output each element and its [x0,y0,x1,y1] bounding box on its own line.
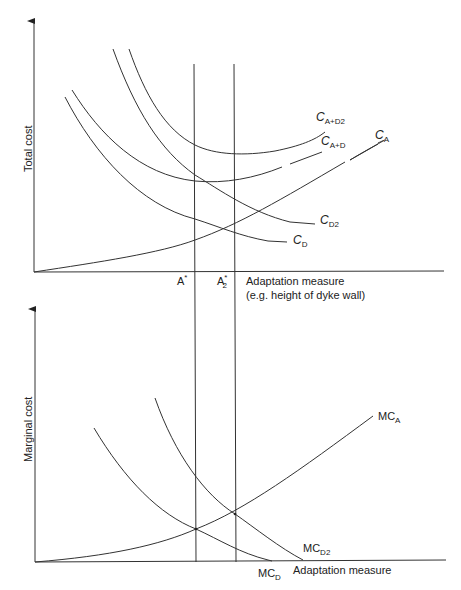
label-c-d2: CD2 [320,213,339,229]
a2-star-line [234,64,236,562]
label-c-d: CD [293,233,307,249]
top-x-axis-label: Adaptation measure [246,275,344,287]
a2-star-label: A*2 [217,273,227,290]
bottom-y-axis-label: Marginal cost [22,397,34,462]
curve-c-a [34,140,384,272]
top-y-axis-label: Total cost [22,126,34,172]
top-x-axis [34,271,444,272]
a-star-label: A* [177,273,187,287]
bottom-x-axis [35,560,446,562]
curve-c-a-d [72,90,322,182]
label-c-a-d: CA+D [321,134,345,150]
curve-mc-d [94,428,272,561]
curve-c-d2 [113,49,315,224]
label-c-a-d2: CA+D2 [316,110,345,126]
diagram-canvas [0,0,461,590]
label-c-a: CA [375,128,389,144]
label-mc-d2: MCD2 [303,542,330,557]
top-x-axis-sublabel: (e.g. height of dyke wall) [246,289,365,301]
bottom-x-axis-label: Adaptation measure [293,564,391,576]
curve-mc-d2 [155,398,303,560]
label-mc-a: MCA [378,410,400,425]
a-star-line [194,64,196,562]
curve-mc-a [35,416,373,562]
label-mc-d: MCD [258,567,281,582]
curve-c-d [65,97,287,242]
